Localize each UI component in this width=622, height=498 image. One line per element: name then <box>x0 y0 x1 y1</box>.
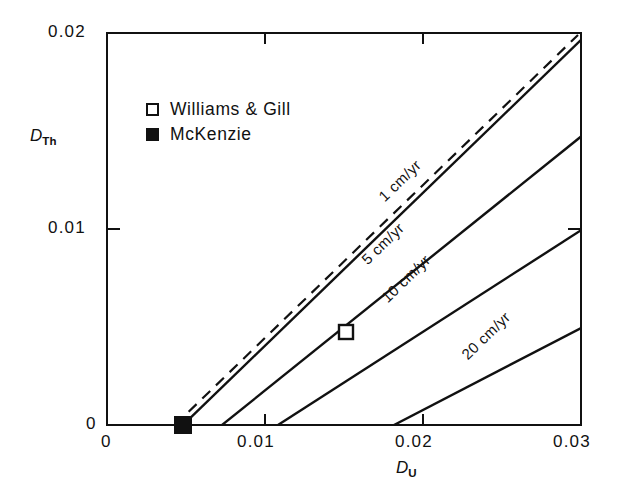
y-tick-label-0.02: 0.02 <box>48 22 86 42</box>
y-tick-label-0: 0 <box>86 414 97 434</box>
legend-item-mckenzie: McKenzie <box>146 122 291 147</box>
x-tick-label-0: 0 <box>101 432 112 452</box>
legend-label-williams-gill: Williams & Gill <box>170 99 291 120</box>
legend: Williams & Gill McKenzie <box>146 97 291 147</box>
x-tick-label-0.01: 0.01 <box>237 432 275 452</box>
open-square-icon <box>146 103 159 116</box>
legend-item-williams-gill: Williams & Gill <box>146 97 291 122</box>
y-axis-title-subscript: Th <box>42 135 57 147</box>
y-axis-title: DTh <box>30 126 57 147</box>
legend-label-mckenzie: McKenzie <box>170 124 252 145</box>
x-axis-title: DU <box>396 458 417 479</box>
datapoint-mckenzie <box>175 417 191 433</box>
figure-chart: 0.02 0.01 0 0 0.01 0.02 0.03 DTh DU Will… <box>0 0 622 498</box>
x-axis-title-subscript: U <box>408 467 417 479</box>
y-axis-title-base: D <box>30 126 42 145</box>
datapoint-williams-gill <box>339 325 353 339</box>
series-line-reference-dashed <box>175 35 578 425</box>
x-axis-ticks-top <box>265 33 423 44</box>
x-tick-label-0.02: 0.02 <box>395 432 433 452</box>
y-tick-label-0.01: 0.01 <box>48 218 86 238</box>
filled-square-icon <box>146 128 159 141</box>
x-axis-title-base: D <box>396 458 408 477</box>
x-tick-label-0.03: 0.03 <box>553 432 591 452</box>
